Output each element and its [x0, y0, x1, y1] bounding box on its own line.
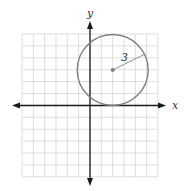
x-axis-left-arrow-icon: [12, 103, 20, 109]
coordinate-plane: 3 y x: [0, 0, 184, 191]
y-axis-up-arrow-icon: [87, 21, 93, 29]
y-axis-label: y: [86, 7, 94, 20]
radius-segment: [113, 55, 144, 71]
radius-label: 3: [121, 51, 128, 64]
x-axis: [12, 103, 166, 109]
x-axis-right-arrow-icon: [158, 103, 166, 109]
y-axis-down-arrow-icon: [87, 178, 93, 186]
x-axis-label: x: [172, 99, 179, 112]
